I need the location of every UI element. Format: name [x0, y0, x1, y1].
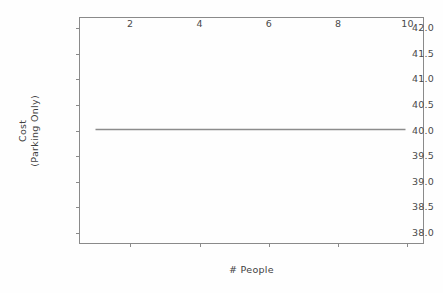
x-axis-tick	[130, 243, 131, 247]
y-axis-tick	[76, 182, 80, 183]
plot-area: 246810	[79, 17, 424, 244]
y-axis-tick-label: 40.5	[412, 98, 434, 109]
y-axis-tick-label: 40.0	[412, 124, 434, 135]
y-axis-label-line-1: Cost	[17, 95, 29, 167]
x-axis-tick	[338, 243, 339, 247]
y-axis-tick-label: 38.0	[412, 226, 434, 237]
y-axis-tick	[76, 156, 80, 157]
y-axis-tick-label: 41.0	[412, 73, 434, 84]
x-axis-tick-label: 8	[335, 18, 341, 29]
x-axis-tick-label: 2	[127, 18, 133, 29]
y-axis-tick	[76, 28, 80, 29]
y-axis-tick-label: 42.0	[412, 22, 434, 33]
x-axis-tick-label: 4	[196, 18, 202, 29]
y-axis-tick	[76, 79, 80, 80]
y-axis-tick-label: 39.0	[412, 175, 434, 186]
chart-figure: Cost (Parking Only) 246810 # People 38.0…	[0, 0, 443, 293]
y-axis-label-line-2: (Parking Only)	[29, 95, 41, 167]
y-axis-tick	[76, 105, 80, 106]
x-axis-tick	[407, 243, 408, 247]
series-layer	[80, 18, 423, 243]
y-axis-tick	[76, 233, 80, 234]
y-axis-label: Cost (Parking Only)	[12, 17, 46, 244]
y-axis-tick-label: 38.5	[412, 201, 434, 212]
x-axis-tick	[269, 243, 270, 247]
y-axis-tick	[76, 54, 80, 55]
y-axis-tick	[76, 207, 80, 208]
y-axis-tick-label: 41.5	[412, 47, 434, 58]
y-axis-tick-label: 39.5	[412, 150, 434, 161]
y-axis-tick	[76, 131, 80, 132]
x-axis-label: # People	[79, 264, 424, 275]
x-axis-tick	[200, 243, 201, 247]
x-axis-tick-label: 6	[266, 18, 272, 29]
